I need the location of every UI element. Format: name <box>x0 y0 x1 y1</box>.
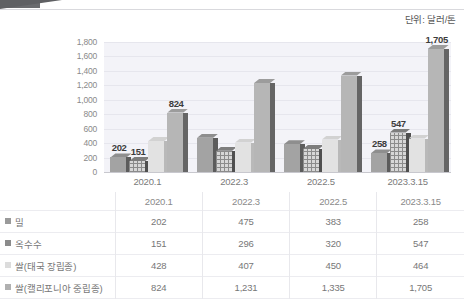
table-header-row: 2020.12022.32022.52023.3.15 <box>0 192 464 211</box>
data-table: 2020.12022.32022.52023.3.15 밀20247538325… <box>0 192 464 299</box>
table-cell: 1,705 <box>377 277 464 299</box>
table-row: 옥수수151296320547 <box>0 233 464 255</box>
y-axis-tick-label: 1,800 <box>77 37 97 47</box>
bar-front-face <box>409 139 425 173</box>
bar-chart: 1,8001,6001,4001,2001,0008006004002000 2… <box>0 30 464 188</box>
banner-divider-rule <box>0 9 464 10</box>
table-cell: 202 <box>115 211 202 233</box>
x-axis-category-label: 2022.3 <box>191 176 277 187</box>
bar-front-face <box>341 76 357 172</box>
bar-value-label: 1,705 <box>426 34 448 45</box>
banner-wedge-shape <box>0 0 62 9</box>
table-cell: 407 <box>202 255 289 277</box>
bar[interactable] <box>216 151 232 172</box>
table-cell: 450 <box>290 255 377 277</box>
bar[interactable]: 824 <box>167 113 183 173</box>
x-axis-baseline <box>104 172 451 173</box>
bar[interactable] <box>235 143 251 172</box>
bar-front-face <box>197 138 213 172</box>
table-row: 쌀(캘리포니아 중립종)8241,2311,3351,705 <box>0 277 464 299</box>
bar-front-face <box>390 133 406 173</box>
bar-value-label: 151 <box>131 146 146 157</box>
bar-front-face <box>110 157 126 172</box>
bar[interactable] <box>322 140 338 173</box>
legend-swatch-icon <box>5 240 11 246</box>
table-row: 밀202475383258 <box>0 211 464 233</box>
bar-front-face <box>428 49 444 172</box>
table-column-header: 2022.5 <box>290 192 377 211</box>
y-axis-tick-label: 1,400 <box>77 66 97 76</box>
table-cell: 428 <box>115 255 202 277</box>
bar-side-face <box>270 83 275 172</box>
bar[interactable] <box>197 138 213 172</box>
bar[interactable]: 547 <box>390 133 406 173</box>
legend-label: 쌀(태국 장립종) <box>15 261 76 272</box>
table-column-header: 2022.3 <box>202 192 289 211</box>
table-cell: 464 <box>377 255 464 277</box>
x-axis-category-label: 2023.3.15 <box>365 176 451 187</box>
table-cell: 475 <box>202 211 289 233</box>
x-axis-category-label: 2020.1 <box>104 176 190 187</box>
bar[interactable]: 151 <box>129 161 145 172</box>
unit-caption: 단위: 달러/톤 <box>405 12 456 26</box>
bar-group: 2021518242020.1 <box>104 42 190 172</box>
y-axis-tick-label: 0 <box>92 167 97 177</box>
bar[interactable]: 202 <box>110 157 126 172</box>
legend-item[interactable]: 옥수수 <box>0 233 115 255</box>
table-cell: 547 <box>377 233 464 255</box>
table-column-header: 2020.1 <box>115 192 202 211</box>
table-cell: 1,335 <box>290 277 377 299</box>
table-header: 2020.12022.32022.52023.3.15 <box>0 192 464 211</box>
y-axis-tick-label: 1,000 <box>77 95 97 105</box>
bar-front-face <box>148 141 164 172</box>
y-axis-tick-label: 1,200 <box>77 80 97 90</box>
bar-front-face <box>216 151 232 172</box>
table-cell: 824 <box>115 277 202 299</box>
legend-label: 쌀(캘리포니아 중립종) <box>15 283 103 294</box>
bar-group: 2585471,7052023.3.15 <box>365 42 451 172</box>
legend-swatch-icon <box>5 284 11 290</box>
bar[interactable] <box>148 141 164 172</box>
bar-side-face <box>357 76 362 172</box>
bar-value-label: 824 <box>169 98 184 109</box>
x-axis-category-label: 2022.5 <box>278 176 364 187</box>
bar[interactable]: 1,705 <box>428 49 444 172</box>
table-cell: 1,231 <box>202 277 289 299</box>
table-cell: 296 <box>202 233 289 255</box>
legend-item[interactable]: 밀 <box>0 211 115 233</box>
table-cell: 151 <box>115 233 202 255</box>
table-row: 쌀(태국 장립종)428407450464 <box>0 255 464 277</box>
bar-value-label: 202 <box>112 142 127 153</box>
bar[interactable] <box>254 83 270 172</box>
legend-swatch-icon <box>5 218 11 224</box>
bar-side-face <box>444 49 449 172</box>
bar-front-face <box>254 83 270 172</box>
table-body: 밀202475383258옥수수151296320547쌀(태국 장립종)428… <box>0 211 464 299</box>
bar-front-face <box>322 140 338 173</box>
bar-front-face <box>371 153 387 172</box>
bar-front-face <box>284 144 300 172</box>
bar-side-face <box>183 113 188 173</box>
bar-front-face <box>303 149 319 172</box>
bar[interactable] <box>341 76 357 172</box>
bar[interactable]: 258 <box>371 153 387 172</box>
table-cell: 383 <box>290 211 377 233</box>
bar-front-face <box>167 113 183 173</box>
y-axis-tick-label: 200 <box>83 153 97 163</box>
y-axis-tick-label: 1,600 <box>77 51 97 61</box>
legend-swatch-icon <box>5 262 11 268</box>
bar[interactable] <box>284 144 300 172</box>
bar-value-label: 547 <box>391 118 406 129</box>
y-axis-tick-label: 400 <box>83 138 97 148</box>
bar-group: 2022.3 <box>191 42 277 172</box>
bar[interactable] <box>409 139 425 173</box>
legend-item[interactable]: 쌀(캘리포니아 중립종) <box>0 277 115 299</box>
y-axis-tick-label: 600 <box>83 124 97 134</box>
bar[interactable] <box>303 149 319 172</box>
legend-item[interactable]: 쌀(태국 장립종) <box>0 255 115 277</box>
table-cell: 320 <box>290 233 377 255</box>
bar-front-face <box>235 143 251 172</box>
table-cell: 258 <box>377 211 464 233</box>
top-decorative-banner <box>0 0 464 11</box>
legend-label: 옥수수 <box>15 239 41 250</box>
